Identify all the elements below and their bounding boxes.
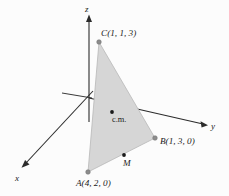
x-axis-label: x xyxy=(14,173,19,183)
center-of-mass-dot xyxy=(110,110,114,114)
midpoint-label: M xyxy=(122,158,132,168)
z-axis-arrowhead xyxy=(86,15,92,23)
vertex-label-a: A(4, 2, 0) xyxy=(75,178,111,188)
midpoint-dot xyxy=(122,153,126,157)
vertex-label-c: C(1, 1, 3) xyxy=(101,28,136,38)
z-axis xyxy=(86,15,92,123)
vertex-dot-b xyxy=(153,136,158,141)
vertex-dot-c xyxy=(97,40,102,45)
center-of-mass-label: c.m. xyxy=(112,115,126,124)
vertex-label-b: B(1, 3, 0) xyxy=(160,136,195,146)
y-axis-arrowhead xyxy=(201,121,209,127)
y-axis-label: y xyxy=(210,121,215,131)
z-axis-label: z xyxy=(84,4,89,14)
figure-svg: z y x C(1, 1, 3) B(1, 3, 0) A(4, 2, 0) c… xyxy=(0,0,229,196)
triangle-lamina xyxy=(88,42,155,172)
x-axis-line xyxy=(26,91,93,163)
math-figure: z y x C(1, 1, 3) B(1, 3, 0) A(4, 2, 0) c… xyxy=(0,0,229,196)
vertex-dot-a xyxy=(86,170,91,175)
x-axis xyxy=(22,91,94,168)
